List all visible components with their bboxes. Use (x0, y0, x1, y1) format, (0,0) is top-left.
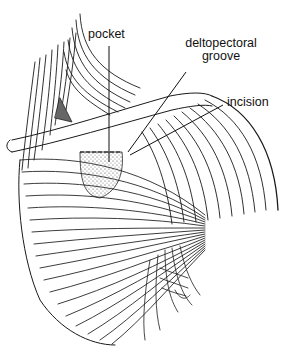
deltoid-fibers (142, 96, 278, 224)
anatomy-illustration: pocket deltopectoral groove incision (0, 0, 284, 363)
groove-label-line2: groove (166, 50, 276, 63)
pocket-label: pocket (88, 28, 125, 41)
incision-label: incision (227, 96, 269, 109)
deltopectoral-groove-label: deltopectoral groove (166, 37, 276, 63)
pocket-region (80, 152, 122, 198)
leader-lines (109, 46, 223, 162)
